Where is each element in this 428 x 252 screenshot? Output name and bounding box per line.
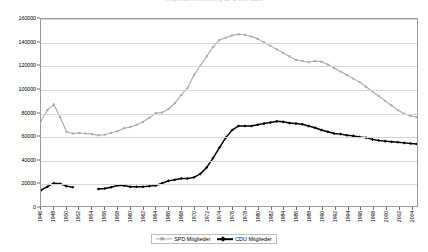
data-point-marker: [65, 131, 67, 133]
data-point-marker: [391, 104, 393, 106]
x-axis-tick-label: 1972: [204, 211, 210, 222]
data-point-marker: [416, 116, 417, 118]
data-point-marker: [352, 78, 354, 80]
data-point-marker: [276, 48, 278, 50]
legend-swatch-icon: [156, 236, 172, 242]
data-point-marker: [384, 100, 386, 102]
x-axis-tick-label: 1992: [332, 211, 338, 222]
legend-entry-spd[interactable]: SPD Mitglieder: [156, 236, 210, 242]
x-axis-tick-label: 1948: [50, 211, 56, 222]
x-axis-tick-mark: [258, 207, 259, 210]
y-axis-tick-label: 160000: [19, 15, 36, 21]
data-point-marker: [97, 134, 99, 136]
x-axis-tick-mark: [373, 207, 374, 210]
data-point-marker: [282, 120, 285, 123]
x-axis-tick-label: 1976: [229, 211, 235, 222]
data-point-marker: [371, 138, 374, 141]
x-axis-tick-mark: [130, 207, 131, 210]
data-point-marker: [148, 117, 150, 119]
data-point-marker: [110, 186, 113, 189]
y-axis: 0200004000060000800001000001200001400001…: [0, 18, 40, 207]
data-point-marker: [186, 177, 189, 180]
x-axis-tick-mark: [348, 207, 349, 210]
data-point-marker: [71, 186, 74, 189]
x-axis-tick-label: 1968: [178, 211, 184, 222]
x-axis-tick-label: 1974: [216, 211, 222, 222]
gridline-horizontal: [41, 90, 417, 91]
x-axis-tick-label: 1952: [75, 211, 81, 222]
chart-container: Mitgliederentwicklung SPD und CDU 020000…: [0, 0, 428, 252]
data-point-marker: [41, 120, 42, 122]
data-point-marker: [225, 37, 227, 39]
data-point-marker: [129, 126, 131, 128]
legend-label: SPD Mitglieder: [174, 236, 210, 242]
data-point-marker: [365, 86, 367, 88]
y-axis-tick-label: 100000: [19, 86, 36, 92]
data-point-marker: [397, 109, 399, 111]
x-axis-tick-label: 1990: [319, 211, 325, 222]
data-point-marker: [301, 60, 303, 62]
data-point-marker: [333, 67, 335, 69]
data-point-marker: [409, 142, 412, 145]
y-axis-tick-label: 80000: [22, 110, 37, 116]
chart-title: Mitgliederentwicklung SPD und CDU: [0, 0, 428, 4]
data-point-marker: [167, 108, 169, 110]
x-axis-tick-mark: [117, 207, 118, 210]
x-axis-tick-label: 1956: [101, 211, 107, 222]
data-point-marker: [257, 38, 259, 40]
x-axis-tick-mark: [296, 207, 297, 210]
legend-label: CDU Mitglieder: [235, 236, 272, 242]
data-point-marker: [238, 33, 240, 35]
x-axis-tick-mark: [78, 207, 79, 210]
data-point-marker: [97, 188, 100, 191]
x-axis-tick-mark: [386, 207, 387, 210]
data-point-marker: [110, 132, 112, 134]
plot-area: [40, 18, 418, 207]
data-point-marker: [326, 130, 329, 133]
x-axis-tick-mark: [194, 207, 195, 210]
x-axis-tick-mark: [143, 207, 144, 210]
data-point-marker: [193, 74, 195, 76]
y-axis-tick-label: 140000: [19, 39, 36, 45]
x-axis-tick-label: 2002: [396, 211, 402, 222]
data-point-marker: [142, 121, 144, 123]
x-axis-tick-mark: [360, 207, 361, 210]
x-axis-tick-mark: [168, 207, 169, 210]
data-point-marker: [308, 61, 310, 63]
data-point-marker: [180, 177, 183, 180]
gridline-horizontal: [41, 137, 417, 138]
data-point-marker: [295, 59, 297, 61]
x-axis-tick-mark: [271, 207, 272, 210]
x-axis-tick-label: 1984: [280, 211, 286, 222]
x-axis-tick-mark: [412, 207, 413, 210]
data-point-marker: [403, 141, 406, 144]
data-point-marker: [269, 121, 272, 124]
x-axis-tick-mark: [232, 207, 233, 210]
data-point-marker: [282, 52, 284, 54]
x-axis-tick-mark: [335, 207, 336, 210]
x-axis-tick-label: 1962: [140, 211, 146, 222]
data-point-marker: [346, 74, 348, 76]
x-axis-tick-mark: [309, 207, 310, 210]
legend-swatch-icon: [217, 236, 233, 242]
x-axis-tick-label: 1958: [114, 211, 120, 222]
chart-legend: SPD MitgliederCDU Mitglieder: [0, 234, 428, 244]
data-point-marker: [187, 87, 189, 89]
y-axis-tick-label: 40000: [22, 157, 37, 163]
x-axis-tick-label: 1978: [242, 211, 248, 222]
data-point-marker: [320, 61, 322, 63]
data-point-marker: [231, 34, 233, 36]
data-point-marker: [250, 124, 253, 127]
data-point-marker: [136, 124, 138, 126]
x-axis-tick-label: 1946: [37, 211, 43, 222]
data-point-marker: [218, 39, 220, 41]
data-point-marker: [294, 122, 297, 125]
data-point-marker: [384, 140, 387, 143]
x-axis-tick-mark: [40, 207, 41, 210]
x-axis-tick-label: 1982: [268, 211, 274, 222]
legend-entry-cdu[interactable]: CDU Mitglieder: [217, 236, 272, 242]
data-point-marker: [135, 185, 138, 188]
x-axis-tick-label: 2004: [409, 211, 415, 222]
gridline-horizontal: [41, 114, 417, 115]
data-point-marker: [415, 143, 417, 146]
